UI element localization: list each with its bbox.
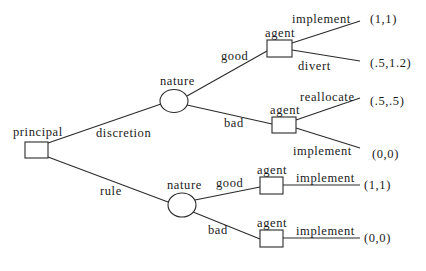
label-implement-2: implement [293,144,352,158]
nature-node-discretion [160,90,188,113]
label-implement-4: implement [296,224,355,238]
principal-label: principal [13,125,63,139]
agent-node-2 [272,117,296,133]
label-reallocate: reallocate [300,90,355,104]
label-discretion: discretion [96,126,151,140]
label-bad-2: bad [208,223,228,237]
agent-label-3: agent [257,163,287,177]
payoff-2: (.5,1.2) [370,56,411,70]
nature-label-discretion: nature [160,74,195,88]
agent-node-4 [260,230,283,247]
label-implement-3: implement [296,171,355,185]
principal-node [25,142,48,158]
payoff-6: (0,0) [364,231,391,245]
payoff-5: (1,1) [364,178,391,192]
label-good-2: good [216,176,244,190]
agent-label-1: agent [265,26,295,40]
payoff-3: (.5,.5) [370,94,404,108]
game-tree-diagram: principal nature nature agent agent agen… [0,0,426,271]
label-rule: rule [100,184,122,198]
label-bad-1: bad [224,116,244,130]
label-divert: divert [298,59,331,73]
label-implement-1: implement [292,12,351,26]
payoff-4: (0,0) [372,147,399,161]
agent-label-4: agent [257,216,287,230]
nature-label-rule: nature [167,178,202,192]
agent-node-3 [260,177,283,194]
agent-label-2: agent [270,103,300,117]
payoff-1: (1,1) [370,12,397,26]
label-good-1: good [221,49,249,63]
nature-node-rule [168,193,196,217]
agent-node-1 [267,40,292,57]
